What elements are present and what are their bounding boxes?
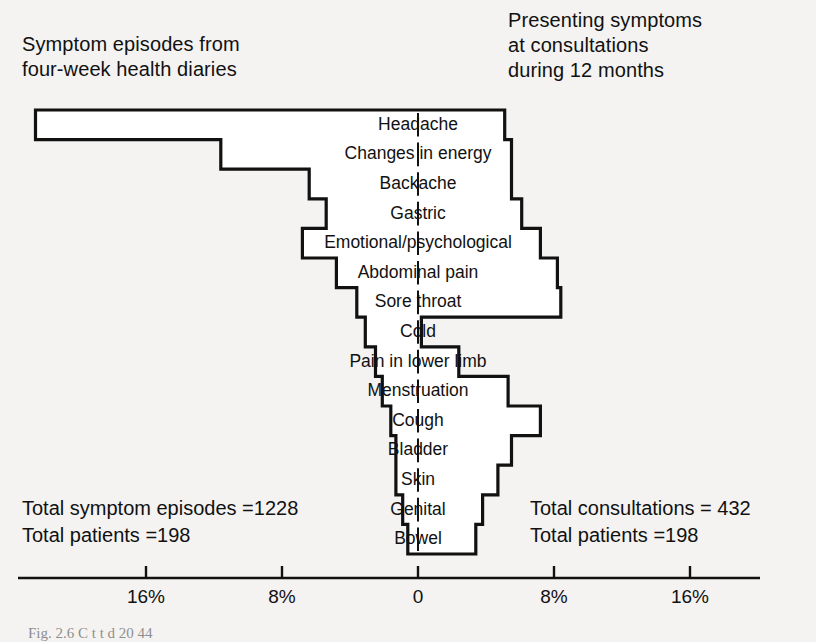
x-axis: 16%8%08%16% (0, 560, 816, 620)
row-label: Pain in lower limb (349, 353, 486, 371)
row-label: Cold (400, 323, 436, 341)
row-label: Abdominal pain (358, 264, 479, 282)
x-axis-line (0, 560, 816, 584)
left-bars-outline (36, 110, 419, 554)
axis-tick-label: 0 (413, 586, 424, 608)
row-label: Genital (390, 501, 445, 519)
row-label: Headache (378, 116, 458, 134)
axis-tick-label: 16% (671, 586, 709, 608)
row-label: Bladder (388, 442, 448, 460)
row-label: Sore throat (375, 294, 462, 312)
axis-tick-label: 8% (540, 586, 567, 608)
row-label: Emotional/psychological (324, 234, 512, 252)
right-panel-title: Presenting symptoms at consultations dur… (508, 8, 702, 83)
pyramid-chart: HeadacheChanges in energyBackacheGastric… (0, 108, 816, 560)
row-label: Menstruation (367, 382, 468, 400)
row-label: Changes in energy (345, 146, 492, 164)
row-label: Bowel (394, 530, 442, 548)
left-totals: Total symptom episodes =1228 Total patie… (22, 495, 298, 549)
row-label: Cough (392, 412, 444, 430)
row-label: Skin (401, 471, 435, 489)
axis-tick-label: 8% (268, 586, 295, 608)
axis-tick-label: 16% (127, 586, 165, 608)
row-label: Backache (380, 175, 457, 193)
right-totals: Total consultations = 432 Total patients… (530, 495, 751, 549)
figure-caption: Fig. 2.6 C t t d 20 44 (28, 625, 153, 642)
row-label: Gastric (390, 205, 445, 223)
left-panel-title: Symptom episodes from four-week health d… (22, 32, 240, 82)
